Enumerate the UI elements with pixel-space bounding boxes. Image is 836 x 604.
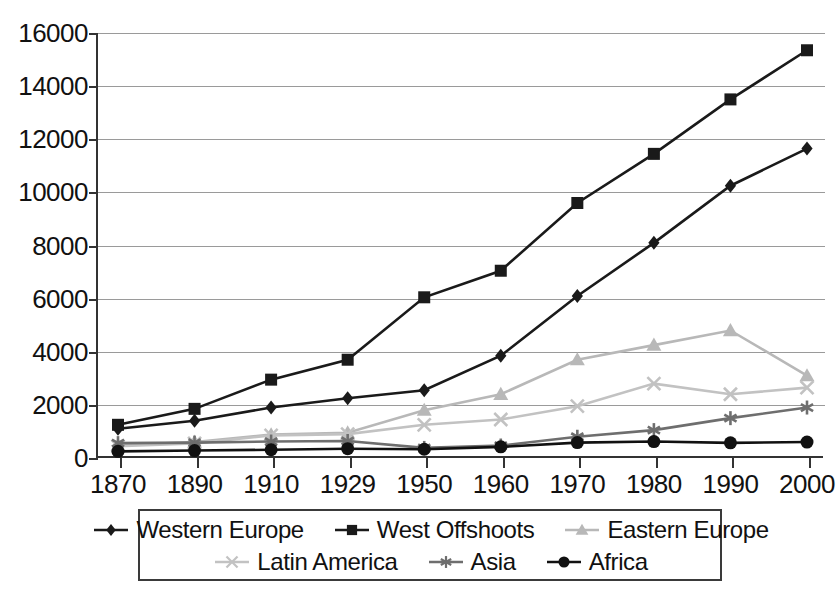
legend-item-west-offshoots[interactable]: West Offshoots [332,517,535,543]
legend-label: Africa [589,549,648,575]
legend-label: Latin America [257,549,397,575]
diamond-marker [189,414,200,428]
diamond-marker [648,236,659,250]
square-marker [724,93,736,105]
diamond-marker [495,349,506,363]
legend-item-asia[interactable]: Asia [426,549,516,575]
square-marker [418,291,430,303]
diamond-marker [801,142,812,156]
diamond-marker [342,391,353,405]
series-line [118,149,807,429]
square-marker [265,374,277,386]
circle-marker [112,445,125,458]
circle-marker [188,444,201,457]
diamond-icon [91,519,131,541]
circle-marker [571,436,584,449]
square-marker [347,525,357,535]
series-line [118,50,807,425]
square-marker [342,354,354,366]
series-line [118,331,807,446]
legend-label: West Offshoots [377,517,535,543]
x-icon [212,551,252,573]
square-marker [112,419,124,431]
square-marker [189,403,201,415]
circle-icon [544,551,584,573]
circle-marker [494,440,507,453]
series-eastern-europe [111,323,815,451]
diamond-marker [266,401,277,415]
square-marker [648,148,660,160]
triangle-marker [723,323,738,336]
legend: Western EuropeWest OffshootsEastern Euro… [138,509,722,581]
triangle-marker [493,387,508,400]
legend-label: Asia [471,549,516,575]
diamond-marker [725,179,736,193]
legend-item-western-europe[interactable]: Western Europe [91,517,303,543]
square-marker [495,265,507,277]
circle-marker [265,443,278,456]
circle-marker [647,435,660,448]
line-chart: 0200040006000800010000120001400016000 18… [0,0,836,604]
square-icon [332,519,372,541]
legend-item-eastern-europe[interactable]: Eastern Europe [562,517,768,543]
circle-marker [724,436,737,449]
circle-marker [341,442,354,455]
legend-label: Eastern Europe [607,517,768,543]
triangle-icon [562,519,602,541]
legend-item-latin-america[interactable]: Latin America [212,549,397,575]
circle-marker [801,436,814,449]
legend-row: Western EuropeWest OffshootsEastern Euro… [140,514,720,546]
diamond-marker [572,289,583,303]
legend-item-africa[interactable]: Africa [544,549,648,575]
circle-marker [418,443,431,456]
legend-row: Latin AmericaAsiaAfrica [140,546,720,578]
diamond-marker [419,383,430,397]
square-marker [801,44,813,56]
square-marker [571,197,583,209]
diamond-marker [107,524,117,536]
asterisk-icon [426,551,466,573]
circle-marker [558,556,569,567]
triangle-marker [800,368,815,381]
legend-label: Western Europe [136,517,303,543]
